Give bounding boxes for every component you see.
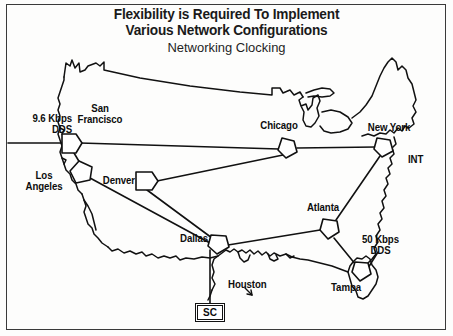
label-tampa: Tampa	[322, 282, 370, 293]
us-map-svg	[0, 0, 453, 336]
link-sanfrancisco-chicago	[80, 143, 279, 149]
label-denver: Denver	[94, 175, 135, 186]
node-denver	[136, 172, 158, 190]
label-san-francisco: San Francisco	[67, 103, 133, 124]
label-9600-kbps-dds: 9.6 Kbps DDS	[15, 113, 72, 134]
network-diagram-figure: Flexibility is Required To Implement Var…	[0, 0, 453, 336]
label-chicago: Chicago	[250, 120, 307, 131]
label-new-york: New York	[360, 122, 417, 133]
link-chicago-denver	[157, 155, 283, 181]
michigan-upper-peninsula	[306, 88, 334, 97]
label-50-kbps-dds: 50 Kbps DDS	[362, 234, 399, 255]
label-9600-kbps-dds-line2: DDS	[15, 124, 72, 135]
label-50-kbps-dds-line2: DDS	[362, 245, 399, 256]
label-san-francisco-line2: Francisco	[67, 114, 133, 125]
texas-west-outline	[108, 247, 218, 260]
node-san-francisco	[62, 134, 82, 153]
lake-erie-ontario	[320, 110, 352, 133]
link-dallas-atlanta	[228, 230, 320, 245]
label-houston: Houston	[228, 279, 267, 290]
node-atlanta	[320, 219, 339, 239]
node-dallas	[208, 235, 229, 254]
label-los-angeles: Los Angeles	[15, 170, 74, 191]
link-atlanta-tampa	[334, 238, 356, 265]
label-dallas: Dallas	[164, 233, 208, 244]
label-los-angeles-line2: Angeles	[15, 181, 74, 192]
node-tampa	[352, 262, 371, 281]
label-atlanta: Atlanta	[298, 202, 348, 213]
northern-border-outline	[64, 60, 303, 97]
label-int: INT	[408, 154, 423, 165]
node-new-york	[374, 138, 393, 157]
link-chicago-newyork	[297, 147, 376, 148]
sc-box-label: SC	[197, 305, 222, 319]
sc-box: SC	[195, 303, 225, 322]
houston-bay-outline	[238, 252, 250, 262]
